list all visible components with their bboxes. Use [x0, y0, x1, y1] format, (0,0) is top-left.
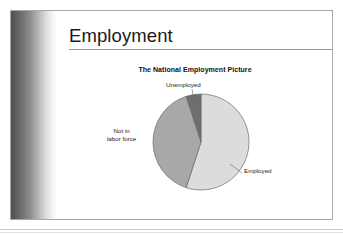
pie-label-not-in-labor-force-line1: Not in: [114, 127, 130, 134]
page-bottom-divider: [0, 229, 343, 230]
pie-label-unemployed: Unemployed: [166, 81, 201, 89]
title-divider: [69, 49, 332, 50]
presentation-slide: Employment The National Employment Pictu…: [10, 10, 333, 220]
pie-chart-svg: [58, 51, 333, 220]
pie-chart-container: The National Employment Picture Unemploy…: [58, 51, 332, 219]
page-title: Employment: [69, 25, 173, 47]
pie-label-not-in-labor-force-line2: labor force: [107, 135, 136, 142]
page-canvas: Employment The National Employment Pictu…: [0, 0, 343, 234]
page-bottom-divider-secondary: [0, 232, 343, 233]
pie-chart: Unemployed Not in labor force Employed: [58, 51, 333, 220]
slide-accent-band: [11, 11, 58, 219]
pie-label-employed: Employed: [244, 167, 272, 175]
pie-label-not-in-labor-force: Not in labor force: [107, 127, 136, 142]
